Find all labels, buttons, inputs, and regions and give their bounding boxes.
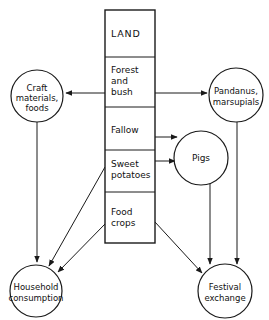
food-crops-line-2: crops: [111, 218, 136, 228]
fallow-line-1: Fallow: [111, 125, 139, 135]
festival-line-2: exchange: [204, 293, 245, 303]
forest-line-3: bush: [111, 87, 133, 97]
land-use-flow-diagram: LAND Forest and bush Fallow Sweet potato…: [0, 0, 269, 320]
craft-line-3: foods: [25, 103, 49, 113]
edge-food-crops-to-household: [58, 224, 105, 272]
land-header-label: LAND: [111, 28, 141, 39]
festival-line-1: Festival: [209, 282, 241, 292]
node-craft-materials-foods: Craft materials, foods: [11, 70, 63, 122]
forest-line-2: and: [111, 76, 128, 86]
edge-sweet-potatoes-to-household: [49, 167, 105, 266]
land-cell-fallow: Fallow: [111, 125, 139, 135]
sweet-potatoes-line-2: potatoes: [111, 170, 151, 180]
node-pandanus-marsupials: Pandanus, marsupials: [209, 68, 263, 122]
household-line-2: consumption: [8, 293, 63, 303]
land-cell-food-crops: Food crops: [111, 207, 136, 228]
node-festival-exchange: Festival exchange: [198, 264, 252, 318]
pigs-line-1: Pigs: [192, 153, 210, 163]
household-line-1: Household: [14, 282, 59, 292]
node-pigs: Pigs: [174, 131, 228, 185]
forest-line-1: Forest: [111, 65, 139, 75]
sweet-potatoes-line-1: Sweet: [111, 159, 139, 169]
diagram-canvas: LAND Forest and bush Fallow Sweet potato…: [0, 0, 269, 320]
pandanus-line-1: Pandanus,: [214, 86, 258, 96]
land-column: LAND Forest and bush Fallow Sweet potato…: [105, 10, 155, 243]
edge-food-crops-to-festival: [155, 222, 202, 273]
craft-line-1: Craft: [27, 83, 48, 93]
pandanus-line-2: marsupials: [213, 97, 260, 107]
craft-line-2: materials,: [16, 93, 59, 103]
node-household-consumption: Household consumption: [8, 265, 63, 317]
food-crops-line-1: Food: [111, 207, 133, 217]
